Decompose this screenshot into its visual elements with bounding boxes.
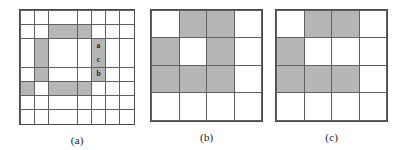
grid-cell-empty: [106, 68, 119, 81]
grid-cell-shaded: [35, 68, 48, 81]
grid-cell-shaded: [35, 53, 48, 66]
grid-cell-empty: [305, 38, 332, 64]
grid-cell-empty: [49, 53, 62, 66]
grid-cell-empty: [63, 11, 76, 24]
grid-cell-empty: [35, 11, 48, 24]
figure-panel-c: (c): [275, 9, 388, 143]
grid-cell-empty: [207, 93, 234, 119]
grid-cell-empty: [35, 96, 48, 109]
panel-caption-b: (b): [200, 131, 213, 143]
grid-cell-empty: [120, 39, 133, 52]
grid-cell-empty: [152, 11, 179, 37]
grid-cell-shaded: [49, 82, 62, 95]
grid-cell-empty: [92, 110, 105, 123]
grid-cell-empty: [235, 93, 262, 119]
grid-cell-empty: [78, 110, 91, 123]
grid-cell-empty: [106, 96, 119, 109]
grid-cell-empty: [78, 68, 91, 81]
grid-cell-label-c: c: [92, 56, 105, 64]
grid-cell-empty: [21, 25, 34, 38]
grid-cell-shaded: [63, 82, 76, 95]
grid-cell-shaded: [305, 11, 332, 37]
panel-caption-c: (c): [325, 131, 338, 143]
grid-cell-empty: [63, 96, 76, 109]
grid-cell-empty: [35, 110, 48, 123]
grid-cell-empty: [21, 53, 34, 66]
grid-cell-empty: [106, 25, 119, 38]
grid-c: [275, 9, 388, 122]
grid-cell-empty: [277, 93, 304, 119]
grid-cell-empty: [180, 38, 207, 64]
grid-cell-empty: [63, 39, 76, 52]
grid-cell-shaded: [180, 66, 207, 92]
grid-cell-empty: [21, 39, 34, 52]
grid-cell-empty: [120, 53, 133, 66]
grid-cell-empty: [49, 110, 62, 123]
grid-b: [150, 9, 263, 122]
grid-cell-empty: [120, 11, 133, 24]
grid-cell-label-a: a: [92, 42, 105, 50]
grid-cell-empty: [21, 11, 34, 24]
grid-cell-empty: [92, 96, 105, 109]
grid-cell-shaded: [21, 82, 34, 95]
figure-panel-b: (b): [150, 9, 263, 143]
grid-cell-shaded: [49, 25, 62, 38]
grid-cell-empty: [49, 96, 62, 109]
grid-cell-empty: [360, 38, 387, 64]
figure-panel-a: acb (a): [19, 9, 135, 146]
grid-cell-empty: [21, 96, 34, 109]
grid-cell-shaded: [305, 66, 332, 92]
grid-cell-shaded: [332, 66, 359, 92]
grid-cell-empty: [63, 53, 76, 66]
grid-cell-empty: [120, 68, 133, 81]
grid-cell-empty: [120, 96, 133, 109]
grid-cell-empty: [92, 82, 105, 95]
grid-cell-empty: [305, 93, 332, 119]
panel-caption-a: (a): [71, 134, 84, 146]
grid-cell-shaded: [35, 39, 48, 52]
grid-cell-shaded: c: [92, 53, 105, 66]
grid-cell-empty: [92, 11, 105, 24]
grid-cell-shaded: [78, 25, 91, 38]
grid-cell-empty: [106, 53, 119, 66]
grid-cell-shaded: [152, 38, 179, 64]
grid-cell-shaded: [332, 11, 359, 37]
grid-cell-empty: [78, 96, 91, 109]
grid-cell-shaded: [152, 66, 179, 92]
grid-cell-empty: [120, 110, 133, 123]
grid-cell-empty: [92, 25, 105, 38]
grid-cell-empty: [78, 53, 91, 66]
grid-cell-empty: [49, 11, 62, 24]
grid-cell-empty: [106, 39, 119, 52]
grid-cell-empty: [360, 93, 387, 119]
grid-cell-empty: [332, 93, 359, 119]
grid-cell-empty: [235, 38, 262, 64]
grid-cell-shaded: [207, 11, 234, 37]
grid-cell-shaded: [277, 38, 304, 64]
grid-cell-shaded: [207, 38, 234, 64]
grid-cell-empty: [180, 93, 207, 119]
grid-cell-shaded: b: [92, 68, 105, 81]
grid-cell-empty: [360, 66, 387, 92]
grid-cell-shaded: [78, 82, 91, 95]
grid-cell-empty: [63, 68, 76, 81]
grid-cell-empty: [63, 110, 76, 123]
grid-cell-shaded: [207, 66, 234, 92]
grid-cell-empty: [49, 68, 62, 81]
grid-cell-empty: [49, 39, 62, 52]
grid-cell-empty: [106, 110, 119, 123]
grid-cell-empty: [332, 38, 359, 64]
grid-cell-empty: [21, 110, 34, 123]
grid-cell-shaded: a: [92, 39, 105, 52]
grid-cell-label-b: b: [92, 71, 105, 79]
grid-cell-empty: [277, 11, 304, 37]
grid-cell-empty: [21, 68, 34, 81]
grid-cell-empty: [152, 93, 179, 119]
grid-cell-empty: [235, 66, 262, 92]
grid-cell-empty: [78, 39, 91, 52]
grid-cell-shaded: [63, 25, 76, 38]
grid-a: acb: [19, 9, 135, 125]
grid-cell-shaded: [180, 11, 207, 37]
grid-cell-empty: [106, 11, 119, 24]
grid-cell-empty: [78, 11, 91, 24]
